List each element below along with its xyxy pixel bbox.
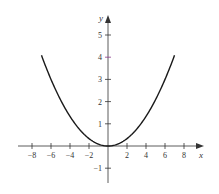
x-axis-arrow-icon bbox=[196, 143, 204, 149]
y-tick-label: −1 bbox=[93, 164, 102, 173]
x-tick-label: −8 bbox=[28, 151, 37, 160]
y-tick-label: 2 bbox=[98, 98, 102, 107]
y-tick-label: 3 bbox=[98, 75, 102, 84]
y-axis-arrow-icon bbox=[105, 15, 111, 23]
x-tick-label: −4 bbox=[66, 151, 75, 160]
y-tick-label: 1 bbox=[98, 120, 102, 129]
x-tick-label: 6 bbox=[163, 151, 167, 160]
y-tick-label: 5 bbox=[98, 31, 102, 40]
x-tick-label: −2 bbox=[85, 151, 94, 160]
x-tick-label: 8 bbox=[182, 151, 186, 160]
parabola-chart: x y −8−6−4−22468 54321−1 bbox=[0, 0, 219, 194]
x-tick-label: −6 bbox=[47, 151, 56, 160]
x-axis-label: x bbox=[198, 150, 203, 160]
y-tick-label: 4 bbox=[98, 53, 102, 62]
y-axis-label: y bbox=[98, 13, 103, 23]
x-tick-label: 2 bbox=[125, 151, 129, 160]
x-tick-label: 4 bbox=[144, 151, 148, 160]
